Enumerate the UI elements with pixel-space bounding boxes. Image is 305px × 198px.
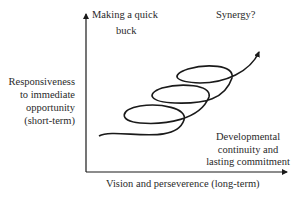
x-axis-label: Vision and perseverence (long-term) <box>106 178 260 190</box>
bottom-right-label-line1: Developmental <box>203 131 293 144</box>
top-left-label-line1: Making a quick <box>92 9 158 21</box>
bottom-right-label: Developmental continuity and lasting com… <box>203 131 293 169</box>
y-axis-label-line1: Responsiveness <box>9 75 76 88</box>
bottom-right-label-line3: lasting commitment <box>203 156 293 169</box>
top-left-label: Making a quick buck <box>92 9 158 37</box>
bottom-right-label-line2: continuity and <box>203 144 293 157</box>
y-axis-label: Responsiveness to immediate opportunity … <box>9 75 76 127</box>
y-axis-label-line4: (short-term) <box>9 114 76 127</box>
top-left-label-line2: buck <box>92 25 158 37</box>
top-right-label: Synergy? <box>216 9 255 21</box>
y-axis-label-line3: opportunity <box>9 101 76 114</box>
y-axis-label-line2: to immediate <box>9 88 76 101</box>
spiral-curve <box>99 52 259 136</box>
